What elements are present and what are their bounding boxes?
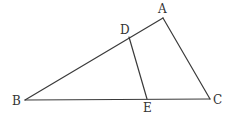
label-E: E bbox=[143, 101, 152, 115]
segment-CA bbox=[163, 18, 210, 99]
label-C: C bbox=[213, 93, 222, 107]
triangle-diagram: A D B E C bbox=[0, 0, 233, 117]
label-B: B bbox=[12, 94, 21, 108]
segment-BC bbox=[25, 99, 210, 100]
label-A: A bbox=[157, 2, 167, 16]
segment-DE bbox=[129, 37, 147, 99]
segment-AB bbox=[25, 18, 163, 100]
label-D: D bbox=[120, 23, 130, 37]
diagram-svg: A D B E C bbox=[0, 0, 233, 117]
